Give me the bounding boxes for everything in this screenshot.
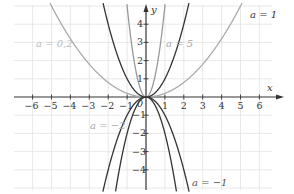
y-tick-label: −4 (132, 165, 146, 175)
y-tick-label: −1 (132, 110, 146, 120)
x-tick-label: 4 (219, 101, 225, 111)
x-tick-label: −3 (81, 101, 95, 111)
y-axis-label: y (151, 5, 157, 15)
y-tick-label: −3 (132, 147, 146, 157)
x-tick-label: −6 (25, 101, 39, 111)
x-tick-label: 5 (238, 101, 244, 111)
x-tick-label: −2 (100, 101, 114, 111)
label-a-5: a = 5 (166, 39, 193, 49)
y-tick-label: −2 (132, 128, 146, 138)
x-tick-label: 3 (200, 101, 206, 111)
x-axis-label: x (267, 83, 273, 93)
label-a-1: a = 1 (250, 10, 277, 20)
x-tick-label: −1 (119, 101, 133, 111)
y-tick-label: 3 (137, 37, 143, 47)
x-tick-label: −4 (62, 101, 76, 111)
label-a-minus-1: a = −1 (192, 178, 227, 188)
y-tick-label: 2 (137, 56, 143, 66)
y-tick-label: 4 (137, 19, 143, 29)
x-tick-label: 2 (181, 101, 187, 111)
y-tick-label: 1 (137, 74, 143, 84)
label-a-0-2: a = 0,2 (36, 39, 73, 49)
x-tick-label: 6 (256, 101, 262, 111)
origin-label: 0 (137, 99, 143, 109)
x-tick-label: −5 (44, 101, 58, 111)
label-a-minus-2: a = −2 (90, 121, 125, 131)
x-tick-label: 1 (162, 101, 168, 111)
parabola-family-plot (0, 0, 294, 194)
